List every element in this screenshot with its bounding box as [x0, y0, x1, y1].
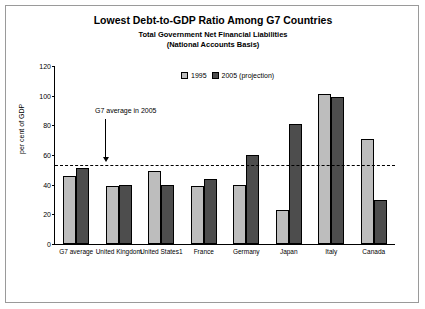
g7-average-line	[55, 165, 395, 166]
g7-average-arrow-shaft	[105, 119, 106, 159]
x-tick-label: Canada	[347, 248, 401, 256]
bar-2005	[76, 168, 89, 244]
bar-1995	[361, 139, 374, 244]
bar-1995	[191, 186, 204, 244]
bar-2005	[331, 97, 344, 244]
bar-group: Japan	[268, 66, 311, 244]
bar-2005	[161, 185, 174, 244]
bar-group: France	[183, 66, 226, 244]
bar-1995	[63, 176, 76, 244]
bar-group: Germany	[225, 66, 268, 244]
bar-group: United States1	[140, 66, 183, 244]
bar-2005	[246, 155, 259, 244]
g7-average-arrow-head	[103, 157, 109, 162]
bar-1995	[106, 186, 119, 244]
y-tick-label: 20	[43, 211, 51, 218]
y-tick-label: 40	[43, 181, 51, 188]
bar-1995	[318, 94, 331, 244]
y-tick-mark	[52, 244, 55, 245]
bar-group: Canada	[353, 66, 396, 244]
chart-title: Lowest Debt-to-GDP Ratio Among G7 Countr…	[6, 14, 420, 26]
bar-2005	[374, 200, 387, 245]
bar-group: Italy	[310, 66, 353, 244]
y-tick-label: 120	[39, 63, 51, 70]
bar-2005	[204, 179, 217, 244]
bar-2005	[119, 185, 132, 244]
bar-2005	[289, 124, 302, 244]
chart-subtitle-1: Total Government Net Financial Liabiliti…	[6, 30, 420, 39]
plot-area: 020406080100120 G7 averageUnited Kingdom…	[54, 66, 395, 245]
bar-group: G7 average	[55, 66, 98, 244]
g7-average-annotation: G7 average in 2005	[95, 107, 157, 114]
y-tick-label: 0	[47, 241, 51, 248]
y-tick-label: 80	[43, 122, 51, 129]
chart-page: Lowest Debt-to-GDP Ratio Among G7 Countr…	[0, 0, 425, 309]
y-tick-label: 60	[43, 152, 51, 159]
bar-1995	[233, 185, 246, 244]
chart-frame: Lowest Debt-to-GDP Ratio Among G7 Countr…	[5, 5, 419, 303]
y-axis-title: per cent of GDP	[18, 104, 25, 154]
bar-group: United Kingdom	[98, 66, 141, 244]
y-tick-label: 100	[39, 92, 51, 99]
bar-1995	[276, 210, 289, 244]
chart-subtitle-2: (National Accounts Basis)	[6, 40, 420, 49]
bar-1995	[148, 171, 161, 244]
